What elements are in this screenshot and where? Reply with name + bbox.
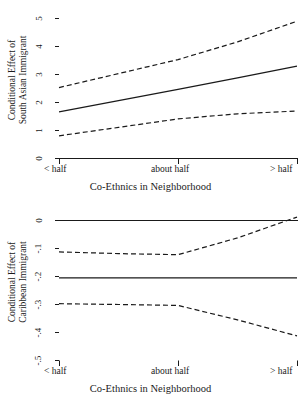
plot-area-caribbean: 0 -.1 -.2 -.3 -.4 -.5 < half about half …	[36, 202, 301, 404]
y-axis-title-caribbean: Conditional Effect of Caribbean Immigran…	[0, 202, 36, 362]
figure-conditional-effects: Conditional Effect of South Asian Immigr…	[0, 0, 301, 404]
x-tick-label-greater-half: > half	[270, 366, 293, 376]
y-tick-label-3: -.3	[28, 300, 50, 309]
y-tick-label-5: -.5	[28, 356, 50, 365]
y-tick-label-0: 0	[28, 216, 50, 225]
y-tick-label-4: -.4	[28, 328, 50, 337]
y-axis-title-south-asian: Conditional Effect of South Asian Immigr…	[0, 0, 36, 160]
y-tick-marks	[55, 221, 59, 361]
x-tick-label-about-half: about half	[151, 366, 189, 376]
lower-ci-line-caribbean	[59, 304, 297, 336]
y-tick-label-2: -.2	[28, 272, 50, 281]
y-tick-label-1: 4	[28, 42, 50, 51]
upper-ci-line-caribbean	[59, 217, 297, 255]
panel-caribbean: Conditional Effect of Caribbean Immigran…	[0, 202, 301, 404]
y-tick-label-4: 1	[28, 126, 50, 135]
y-axis-title-line2: Caribbean Immigrant	[18, 241, 29, 323]
estimate-line-south-asian	[59, 66, 297, 112]
y-axis-title-line1: Conditional Effect of	[7, 241, 18, 323]
x-axis-title-south-asian: Co-Ethnics in Neighborhood	[0, 181, 301, 193]
x-axis-title-caribbean: Co-Ethnics in Neighborhood	[0, 383, 301, 395]
lower-ci-line-south-asian	[59, 111, 297, 136]
x-tick-label-less-half: < half	[44, 366, 67, 376]
upper-ci-line-south-asian	[59, 21, 297, 87]
y-tick-label-2: 3	[28, 70, 50, 79]
plot-area-south-asian: 5 4 3 2 1 0 < half about half > half	[36, 0, 301, 202]
x-tick-label-greater-half: > half	[270, 164, 293, 174]
x-tick-label-about-half: about half	[151, 164, 189, 174]
y-tick-label-1: -.1	[28, 244, 50, 253]
y-tick-marks	[55, 19, 59, 159]
y-tick-label-5: 0	[28, 154, 50, 163]
panel-south-asian: Conditional Effect of South Asian Immigr…	[0, 0, 301, 202]
y-tick-label-3: 2	[28, 98, 50, 107]
y-axis-title-line1: Conditional Effect of	[7, 36, 18, 125]
y-tick-label-0: 5	[28, 14, 50, 23]
x-tick-label-less-half: < half	[44, 164, 67, 174]
